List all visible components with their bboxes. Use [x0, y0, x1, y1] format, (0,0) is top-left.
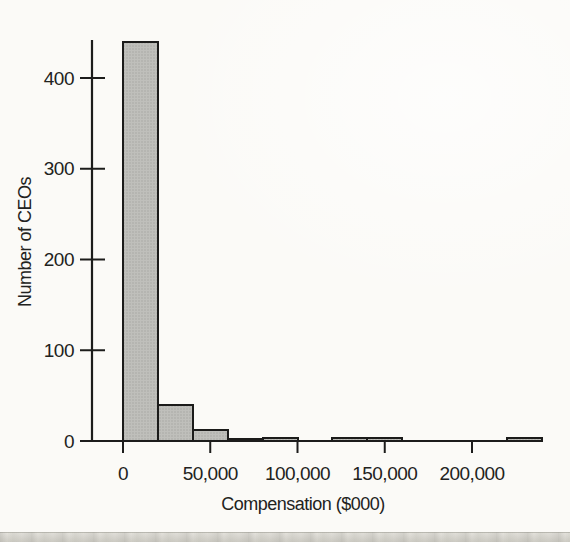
axis-tick-labels: 050,000100,000150,000200,000010020030040…	[44, 68, 505, 485]
x-axis-tick-label: 50,000	[183, 463, 238, 484]
histogram-bar	[158, 405, 193, 441]
axis-frame	[92, 40, 543, 441]
y-axis-tick-label: 100	[44, 340, 74, 361]
x-axis-tick-label: 200,000	[439, 463, 504, 484]
x-axis-tick-label: 100,000	[265, 463, 330, 484]
x-axis-title: Compensation ($000)	[221, 494, 385, 514]
x-axis-tick-label: 0	[118, 463, 128, 484]
axes	[92, 40, 543, 441]
scanned-page: 050,000100,000150,000200,000010020030040…	[0, 0, 570, 542]
ceo-compensation-histogram: 050,000100,000150,000200,000010020030040…	[0, 0, 570, 542]
y-axis-tick-label: 200	[44, 249, 74, 270]
y-axis-tick-label: 400	[44, 68, 74, 89]
histogram-bar	[193, 430, 228, 441]
histogram-bar	[123, 42, 158, 441]
page-bottom-strip	[0, 532, 570, 542]
histogram-bars	[123, 42, 542, 441]
y-axis-tick-label: 300	[44, 158, 74, 179]
x-axis-tick-label: 150,000	[352, 463, 417, 484]
y-axis-title: Number of CEOs	[15, 176, 35, 307]
y-axis-tick-label: 0	[64, 431, 74, 452]
